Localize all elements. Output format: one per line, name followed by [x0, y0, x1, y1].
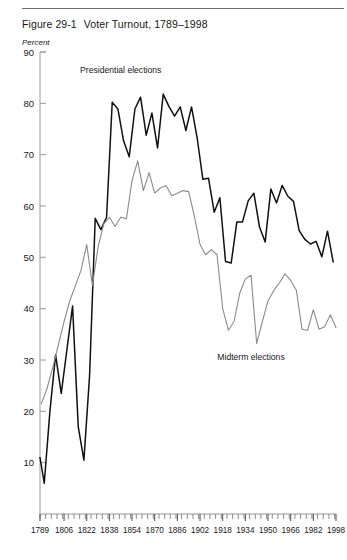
y-tick-label: 70	[23, 149, 34, 160]
y-ticks: 102030405060708090	[23, 47, 46, 469]
figure-container: Figure 29-1Voter Turnout, 1789–1998 Perc…	[0, 0, 347, 560]
x-tick-label: 1806	[55, 526, 74, 535]
x-tick-label: 1902	[191, 526, 210, 535]
x-tick-label: 1998	[327, 526, 346, 535]
series-line-midterm	[41, 161, 336, 404]
x-major-ticks	[40, 514, 336, 521]
y-tick-label: 40	[23, 303, 34, 314]
y-tick-label: 10	[23, 457, 34, 468]
voter-turnout-chart: 102030405060708090 178918061822183818541…	[0, 0, 347, 560]
x-tick-label: 1950	[259, 526, 278, 535]
y-tick-label: 80	[23, 98, 34, 109]
annotation-presidential: Presidential elections	[80, 65, 161, 75]
series-lines	[40, 94, 336, 483]
x-tick-label: 1918	[214, 526, 233, 535]
x-tick-labels: 1789180618221838185418701886190219181934…	[31, 526, 346, 535]
y-tick-label: 50	[23, 252, 34, 263]
x-tick-label: 1789	[31, 526, 50, 535]
series-line-presidential	[40, 94, 333, 483]
x-tick-label: 1854	[123, 526, 142, 535]
y-tick-label: 30	[23, 355, 34, 366]
x-tick-label: 1966	[282, 526, 301, 535]
x-tick-label: 1870	[146, 526, 165, 535]
y-tick-label: 90	[23, 47, 34, 58]
x-tick-label: 1982	[304, 526, 323, 535]
x-tick-label: 1886	[168, 526, 187, 535]
annotation-midterm: Midterm elections	[217, 352, 284, 362]
x-tick-label: 1822	[78, 526, 97, 535]
y-tick-label: 60	[23, 201, 34, 212]
y-tick-label: 20	[23, 406, 34, 417]
x-tick-label: 1934	[236, 526, 255, 535]
x-tick-label: 1838	[100, 526, 119, 535]
